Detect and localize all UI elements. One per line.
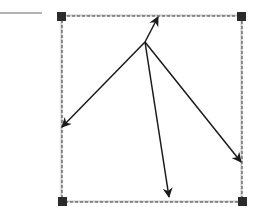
frame-border: [62, 16, 242, 202]
resize-handle-top-right[interactable]: [237, 12, 246, 21]
arrow-right: [145, 42, 241, 162]
arrow-up: [145, 17, 158, 42]
resize-handle-bottom-left[interactable]: [58, 197, 67, 206]
resize-handles[interactable]: [57, 12, 247, 206]
frame-dashed-outline: [62, 16, 242, 202]
arrow-left: [62, 42, 145, 127]
resize-handle-bottom-right[interactable]: [238, 197, 247, 206]
arrow-down: [145, 42, 169, 197]
selection-frame[interactable]: [62, 16, 243, 203]
resize-handle-top-left[interactable]: [57, 12, 66, 21]
vector-arrows: [62, 17, 241, 197]
diagram-canvas: [0, 0, 256, 217]
